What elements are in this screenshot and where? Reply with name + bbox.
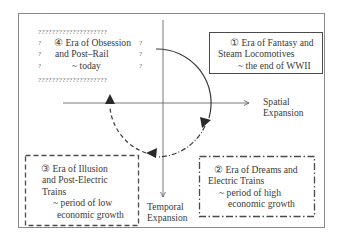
era3-subtitle: and Post-Electric <box>41 174 139 185</box>
spatial-expansion-label: Spatial Expansion <box>263 96 304 119</box>
era4-title: ④ Era of Obsession <box>54 37 131 48</box>
arc-era1-to-era2 <box>156 49 211 128</box>
border-glyph: ? <box>38 49 41 60</box>
arrowhead-up-icon <box>105 94 115 104</box>
era4-content: ④ Era of Obsession and Post–Rail ~ today <box>54 37 131 71</box>
temporal-label-line: Expansion <box>147 212 188 223</box>
era1-title: ① Era of Fantasy and <box>218 37 322 48</box>
spatial-label-line: Spatial <box>263 96 304 107</box>
arc-era2-to-era3 <box>146 126 205 158</box>
era4-period: ~ today <box>54 60 131 71</box>
era3-period-cont: economic growth <box>41 209 139 220</box>
era-box-1: ① Era of Fantasy and Steam Locomotives ~… <box>209 32 323 74</box>
era4-border-right: ? ? ? <box>139 38 142 72</box>
arrowhead-left-icon <box>146 148 157 158</box>
era1-period: ~ the end of WWII <box>218 60 322 71</box>
era2-subtitle: Electric Trains <box>208 175 315 186</box>
border-glyph: ? <box>139 49 142 60</box>
border-glyph: ? <box>139 38 142 49</box>
era-box-2: ② Era of Dreams and Electric Trains ~ pe… <box>199 156 315 217</box>
border-glyph: ? <box>38 61 41 72</box>
border-glyph: ? <box>139 61 142 72</box>
temporal-label-line: Temporal <box>147 201 188 212</box>
era4-border-left: ? ? ? <box>38 38 41 72</box>
era2-period-cont: economic growth <box>208 198 315 209</box>
spatial-label-line: Expansion <box>263 107 304 118</box>
era-box-3: ③ Era of Illusion and Post-Electric Trai… <box>25 155 139 226</box>
arrowhead-down-icon <box>200 117 211 128</box>
era4-subtitle: and Post–Rail <box>54 48 131 59</box>
era3-period: ~ period of low <box>41 197 139 208</box>
temporal-expansion-label: Temporal Expansion <box>147 201 188 224</box>
era-box-4: ???????????????????? ? ? ? ? ? ? ④ Era o… <box>36 26 148 84</box>
era4-border-bottom: ???????????????????? <box>38 75 107 86</box>
era3-subtitle-cont: Trains <box>41 186 139 197</box>
border-glyph: ? <box>38 38 41 49</box>
era2-period: ~ period of high <box>208 187 315 198</box>
era3-title: ③ Era of Illusion <box>41 163 139 174</box>
era2-title: ② Era of Dreams and <box>208 164 315 175</box>
era1-subtitle: Steam Locomotives <box>218 48 322 59</box>
